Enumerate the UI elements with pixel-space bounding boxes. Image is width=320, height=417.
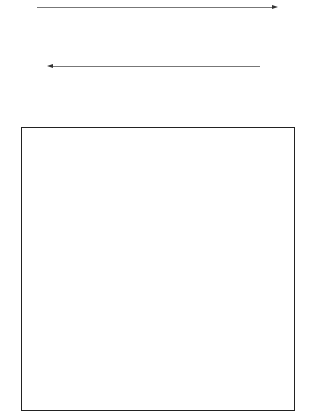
- arrow-right: [37, 7, 273, 8]
- arrow-left: [52, 66, 260, 67]
- arrow-head-left-icon: [47, 64, 53, 68]
- arrow-head-right-icon: [272, 5, 278, 9]
- quilt-grid: [21, 127, 295, 411]
